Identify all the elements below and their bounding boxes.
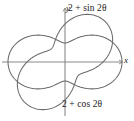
x-axis-label: x <box>124 56 128 65</box>
curve-label-cos: 2 + cos 2θ <box>62 100 102 110</box>
curve-label-sin: 2 + sin 2θ <box>68 4 107 14</box>
y-axis-label: y <box>66 4 70 13</box>
polar-curve-figure: 2 + sin 2θ 2 + cos 2θ y x <box>0 0 134 121</box>
